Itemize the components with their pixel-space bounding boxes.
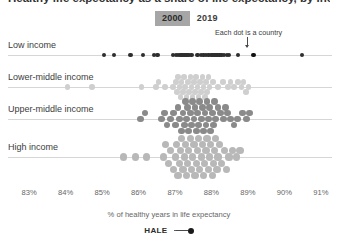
country-dot[interactable]	[243, 116, 250, 123]
country-dot[interactable]	[132, 153, 139, 160]
legend: HALE	[0, 226, 338, 235]
swarm-0	[0, 40, 338, 70]
country-dot-annotated[interactable]	[251, 53, 255, 57]
country-dot[interactable]	[189, 53, 193, 57]
x-tick-label: 91%	[313, 188, 328, 197]
year-option-2019[interactable]: 2019	[190, 11, 225, 26]
annotation-label: Each dot is a country	[215, 28, 282, 37]
country-dot[interactable]	[89, 84, 95, 90]
page-title: Healthy life expectancy as a share of li…	[8, 0, 330, 5]
country-dot[interactable]	[139, 84, 145, 90]
country-dot[interactable]	[142, 110, 149, 117]
income-group-row: Upper-middle income	[0, 104, 338, 134]
country-dot[interactable]	[207, 84, 213, 90]
page-title-text: Healthy life expectancy as a share of li…	[8, 0, 330, 5]
country-dot[interactable]	[234, 116, 241, 123]
x-tick-label: 84%	[58, 188, 73, 197]
year-toggle[interactable]: 2000 2019	[155, 11, 225, 26]
country-dot[interactable]	[246, 84, 252, 90]
country-dot[interactable]	[231, 122, 238, 129]
country-dot[interactable]	[164, 122, 171, 129]
country-dot[interactable]	[185, 128, 192, 135]
country-dot[interactable]	[191, 172, 198, 179]
swarm-2	[0, 104, 338, 134]
country-dot[interactable]	[183, 172, 190, 179]
country-dot[interactable]	[200, 172, 207, 179]
country-dot[interactable]	[120, 153, 127, 160]
country-dot[interactable]	[225, 84, 231, 90]
legend-marker-icon	[174, 228, 193, 234]
country-dot[interactable]	[233, 153, 240, 160]
x-tick-label: 86%	[131, 188, 146, 197]
country-dot[interactable]	[223, 166, 230, 173]
country-dot[interactable]	[215, 84, 221, 90]
country-dot[interactable]	[204, 89, 210, 95]
country-dot[interactable]	[137, 116, 144, 123]
country-dot[interactable]	[102, 53, 106, 57]
x-axis: 83%84%85%86%87%88%89%90%91%	[0, 188, 338, 202]
country-dot[interactable]	[209, 172, 216, 179]
country-dot[interactable]	[243, 89, 249, 95]
country-dot[interactable]	[300, 53, 304, 57]
country-dot[interactable]	[65, 84, 71, 90]
country-dot[interactable]	[225, 153, 232, 160]
x-tick-label: 85%	[94, 188, 109, 197]
income-group-row: Lower-middle income	[0, 72, 338, 102]
chart-root: Healthy life expectancy as a share of li…	[0, 0, 338, 243]
country-dot[interactable]	[175, 104, 182, 111]
country-dot[interactable]	[220, 116, 227, 123]
country-dot[interactable]	[200, 128, 207, 135]
income-group-row: High income	[0, 142, 338, 172]
x-tick-label: 88%	[204, 188, 219, 197]
x-tick-label: 83%	[22, 188, 37, 197]
country-dot[interactable]	[212, 116, 219, 123]
country-dot[interactable]	[112, 53, 116, 57]
country-dot[interactable]	[158, 116, 165, 123]
country-dot[interactable]	[213, 166, 220, 173]
country-dot[interactable]	[161, 110, 168, 117]
country-dot[interactable]	[155, 53, 159, 57]
country-dot[interactable]	[172, 122, 179, 129]
country-dot[interactable]	[231, 84, 237, 90]
country-dot[interactable]	[128, 53, 132, 57]
country-dot[interactable]	[193, 128, 200, 135]
country-dot[interactable]	[141, 53, 145, 57]
country-dot[interactable]	[236, 147, 243, 154]
x-tick-label: 87%	[167, 188, 182, 197]
country-dot[interactable]	[143, 153, 150, 160]
x-axis-label: % of healthy years in life expectancy	[0, 210, 338, 219]
country-dot[interactable]	[162, 84, 168, 90]
country-dot[interactable]	[170, 110, 177, 117]
legend-label: HALE	[144, 226, 167, 235]
x-tick-label: 89%	[240, 188, 255, 197]
country-dot[interactable]	[153, 84, 159, 90]
country-dot[interactable]	[156, 79, 162, 85]
country-dot[interactable]	[210, 122, 217, 129]
country-dot[interactable]	[236, 53, 240, 57]
x-tick-label: 90%	[277, 188, 292, 197]
country-dot[interactable]	[207, 128, 214, 135]
swarm-3	[0, 142, 338, 172]
country-dot[interactable]	[174, 172, 181, 179]
year-option-2000[interactable]: 2000	[155, 11, 190, 26]
country-dot[interactable]	[227, 53, 231, 57]
income-group-row: Low income	[0, 40, 338, 70]
country-dot[interactable]	[178, 128, 185, 135]
country-dot[interactable]	[246, 110, 253, 117]
swarm-1	[0, 72, 338, 102]
